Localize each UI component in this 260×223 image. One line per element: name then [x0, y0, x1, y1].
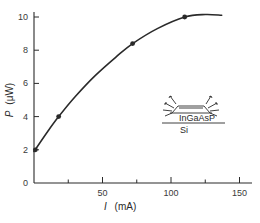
data-point-marker: [56, 114, 61, 119]
data-curve: [34, 14, 222, 151]
y-tick-label: 10: [18, 12, 28, 22]
inset-substrate-label: Si: [180, 125, 188, 135]
x-ticks: 50100150: [68, 177, 247, 198]
data-point-marker: [33, 147, 38, 152]
y-axis-label-unit: (μW): [4, 83, 15, 105]
x-axis-label-symbol: I: [104, 201, 107, 212]
y-ticks: 0246810: [18, 12, 39, 188]
y-tick-label: 6: [23, 78, 28, 88]
y-axis-label: P (μW): [4, 83, 15, 117]
y-axis-label-symbol: P: [4, 110, 15, 117]
x-axis-label: I (mA): [104, 201, 136, 212]
x-tick-label: 50: [97, 188, 107, 198]
data-point-marker: [182, 15, 187, 20]
chart: 0246810 50100150 P (μW) I (mA): [0, 0, 260, 223]
mesa-shape: [172, 106, 210, 113]
y-tick-label: 4: [23, 112, 28, 122]
data-point-marker: [130, 41, 135, 46]
x-tick-label: 100: [163, 188, 178, 198]
y-tick-label: 0: [23, 178, 28, 188]
inset-layer-label: InGaAsP: [179, 113, 215, 123]
svg-text:P (μW): P (μW): [4, 83, 15, 117]
x-axis-label-unit: (mA): [115, 201, 137, 212]
y-tick-label: 2: [23, 145, 28, 155]
data-markers: [33, 15, 187, 153]
x-tick-label: 150: [232, 188, 247, 198]
y-tick-label: 8: [23, 45, 28, 55]
